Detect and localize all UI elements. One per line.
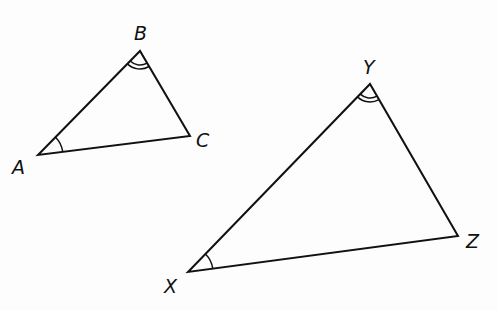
vertex-label-b: B bbox=[134, 22, 147, 44]
triangle-abc-outline bbox=[38, 51, 190, 155]
vertex-label-x: X bbox=[163, 275, 178, 297]
diagram-canvas: A B C X Y Z bbox=[0, 0, 498, 310]
triangle-xyz-outline bbox=[188, 84, 458, 272]
vertex-label-c: C bbox=[196, 129, 210, 151]
angle-b-arc-inner bbox=[130, 61, 147, 65]
angle-a-arc bbox=[56, 137, 63, 151]
triangle-abc: A B C bbox=[10, 22, 210, 178]
angle-y-arc-inner bbox=[360, 94, 377, 98]
angle-x-arc bbox=[205, 254, 212, 268]
vertex-label-z: Z bbox=[465, 230, 480, 252]
triangle-xyz: X Y Z bbox=[163, 56, 480, 297]
vertex-label-a: A bbox=[10, 156, 25, 178]
similar-triangles-figure: A B C X Y Z bbox=[0, 0, 498, 310]
vertex-label-y: Y bbox=[363, 56, 376, 78]
